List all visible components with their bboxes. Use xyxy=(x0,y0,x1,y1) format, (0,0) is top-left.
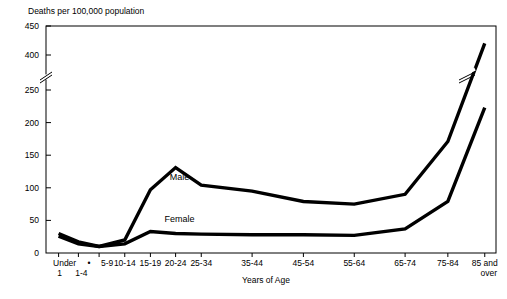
x-label-9: 55-64 xyxy=(343,258,365,268)
series-line-male xyxy=(59,43,485,246)
x-label-12-b: over xyxy=(480,268,497,278)
x-label-5: 20-24 xyxy=(165,258,187,268)
x-label-dot: • xyxy=(88,258,91,268)
y-tick-label-150: 150 xyxy=(25,150,39,160)
series-annotation-male: Male xyxy=(170,172,190,182)
y-tick-label-50: 50 xyxy=(30,215,40,225)
x-label-12: 85 and xyxy=(472,258,498,268)
y-tick-label-200: 200 xyxy=(25,118,39,128)
series-annotation-female: Female xyxy=(165,214,195,224)
x-axis-title: Years of Age xyxy=(242,275,290,285)
y-tick-label-450: 450 xyxy=(25,21,39,31)
plot-frame xyxy=(46,26,496,253)
x-label-3: 10-14 xyxy=(114,258,136,268)
x-label-6: 25-34 xyxy=(190,258,212,268)
x-label-11: 75-84 xyxy=(437,258,459,268)
y-tick-label-100: 100 xyxy=(25,183,39,193)
x-label-4: 15-19 xyxy=(140,258,162,268)
mortality-line-chart: Deaths per 100,000 population05010015020… xyxy=(0,0,507,299)
x-label-8: 45-54 xyxy=(293,258,315,268)
x-label-1: 1-4 xyxy=(75,268,88,278)
y-tick-label-250: 250 xyxy=(25,85,39,95)
x-label-0: Under xyxy=(53,258,76,268)
chart-container: Deaths per 100,000 population05010015020… xyxy=(0,0,507,299)
y-tick-label-0: 0 xyxy=(34,248,39,258)
x-label-7: 35-44 xyxy=(241,258,263,268)
x-label-10: 65-74 xyxy=(394,258,416,268)
x-label-2: 5-9 xyxy=(101,258,114,268)
y-tick-label-400: 400 xyxy=(25,50,39,60)
x-label-0-b: 1 xyxy=(57,268,62,278)
y-axis-title: Deaths per 100,000 population xyxy=(28,6,145,16)
